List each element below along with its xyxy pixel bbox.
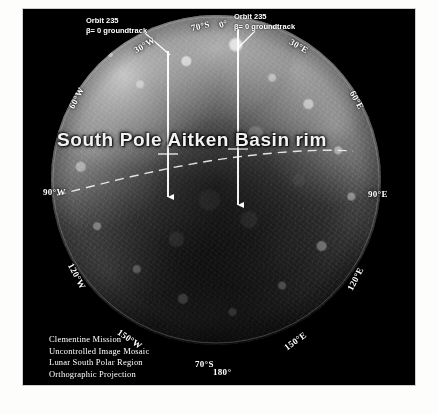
credit-line-mosaic: Uncontrolled Image Mosaic	[49, 346, 149, 358]
longitude-label-90w: 90°W	[43, 187, 66, 197]
credit-line-projection: Orthographic Projection	[49, 369, 149, 381]
credit-line-mission: Clementine Mission	[49, 334, 149, 346]
longitude-label-180: 180°	[213, 367, 231, 377]
longitude-label-90e: 90°E	[368, 189, 388, 199]
callout-orbit-left-line1: Orbit 235	[86, 16, 147, 26]
credit-line-region: Lunar South Polar Region	[49, 357, 149, 369]
callout-orbit-left-line2: β= 0 groundtrack	[86, 26, 147, 36]
callout-orbit-right-line2: β= 0 groundtrack	[234, 22, 295, 32]
lunar-mosaic-figure: Orbit 235 β= 0 groundtrack Orbit 235 β= …	[22, 8, 416, 386]
lunar-disc-image	[51, 15, 381, 345]
callout-orbit-right: Orbit 235 β= 0 groundtrack	[234, 12, 295, 32]
latitude-label-70s-bottom: 70°S	[195, 359, 214, 369]
mission-credit-block: Clementine Mission Uncontrolled Image Mo…	[49, 334, 149, 380]
callout-orbit-right-line1: Orbit 235	[234, 12, 295, 22]
callout-orbit-left: Orbit 235 β= 0 groundtrack	[86, 16, 147, 36]
spa-basin-rim-label: South Pole Aitken Basin rim	[57, 129, 327, 151]
lunar-terminator-shading	[51, 15, 381, 345]
figure-page: Orbit 235 β= 0 groundtrack Orbit 235 β= …	[0, 0, 438, 414]
